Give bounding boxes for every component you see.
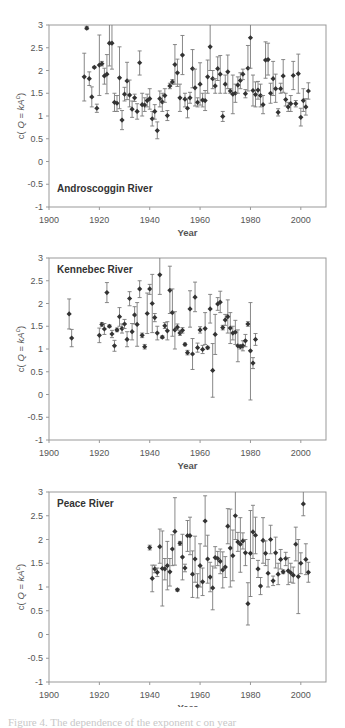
y-tick-label: 0 <box>38 390 43 400</box>
data-point <box>192 295 197 300</box>
x-tick-label: 1960 <box>190 690 210 700</box>
data-point <box>187 95 192 100</box>
data-point <box>150 116 155 121</box>
data-point <box>220 114 225 119</box>
data-point <box>283 556 288 561</box>
data-point <box>225 524 230 529</box>
y-tick-label: -0.5 <box>27 179 43 189</box>
y-tick-label: 0.5 <box>30 367 43 377</box>
x-tick-label: 1980 <box>240 690 260 700</box>
chart-title: Peace River <box>57 498 114 509</box>
data-point <box>248 35 253 40</box>
data-point <box>152 315 157 320</box>
data-point <box>263 551 268 556</box>
x-tick-label: 2000 <box>291 690 311 700</box>
x-tick-label: 1900 <box>39 215 59 225</box>
data-point <box>165 328 170 333</box>
chart-peace: 32.521.510.50-0.5-1190019201940196019802… <box>0 467 345 707</box>
y-tick-label: 2 <box>38 299 43 309</box>
data-point <box>137 60 142 65</box>
data-point <box>122 321 127 326</box>
y-tick-label: 3 <box>38 20 43 30</box>
data-point <box>185 106 190 111</box>
data-point <box>301 501 306 506</box>
data-point <box>87 76 92 81</box>
data-point <box>243 550 248 555</box>
data-point <box>82 74 87 79</box>
data-point <box>89 94 94 99</box>
plot-area <box>49 258 326 440</box>
y-tick-label: 0.5 <box>30 134 43 144</box>
data-point <box>137 286 142 291</box>
data-point <box>248 348 253 353</box>
x-tick-label: 1920 <box>89 215 109 225</box>
data-point <box>190 572 195 577</box>
data-point <box>195 583 200 588</box>
y-tick-label: 1 <box>38 344 43 354</box>
data-point <box>192 556 197 561</box>
x-tick-label: 1940 <box>140 448 160 458</box>
data-point <box>208 574 213 579</box>
data-point <box>117 314 122 319</box>
y-tick-label: -1 <box>35 435 43 445</box>
data-point <box>220 325 225 330</box>
data-point <box>260 102 265 107</box>
data-point <box>127 92 132 97</box>
y-tick-label: 0 <box>38 157 43 167</box>
data-point <box>142 344 147 349</box>
figure-caption: Figure 4. The dependence of the exponent… <box>8 716 236 728</box>
y-tick-label: 2 <box>38 535 43 545</box>
data-point <box>243 338 248 343</box>
data-point <box>283 97 288 102</box>
y-tick-label: 1 <box>38 582 43 592</box>
data-point <box>140 333 145 338</box>
data-point <box>250 361 255 366</box>
data-point <box>150 576 155 581</box>
data-point <box>276 110 281 115</box>
data-point <box>152 109 157 114</box>
data-point <box>268 91 273 96</box>
data-point <box>281 73 286 78</box>
x-tick-label: 2000 <box>291 448 311 458</box>
data-point <box>157 272 162 277</box>
data-point <box>145 311 150 316</box>
chart-svg: 32.521.510.50-0.5-1190019201940196019802… <box>0 467 345 707</box>
y-tick-label: 1 <box>38 111 43 121</box>
data-point <box>203 518 208 523</box>
y-tick-label: 2.5 <box>30 276 43 286</box>
data-point <box>210 368 215 373</box>
data-point <box>182 565 187 570</box>
chart-title: Kennebec River <box>57 264 133 275</box>
data-point <box>271 578 276 583</box>
data-point <box>147 286 152 291</box>
data-point <box>130 107 135 112</box>
data-point <box>260 538 265 543</box>
data-point <box>273 86 278 91</box>
x-tick-label: 1960 <box>190 448 210 458</box>
data-point <box>225 69 230 74</box>
data-point <box>102 326 107 331</box>
data-point <box>210 585 215 590</box>
x-tick-label: 1900 <box>39 448 59 458</box>
x-tick-label: 1960 <box>190 215 210 225</box>
data-point <box>150 301 155 306</box>
data-point <box>306 570 311 575</box>
data-point <box>245 321 250 326</box>
data-point <box>180 52 185 57</box>
data-point <box>182 342 187 347</box>
data-point <box>200 579 205 584</box>
data-point <box>67 311 72 316</box>
data-point <box>250 88 255 93</box>
x-tick-label: 1920 <box>89 690 109 700</box>
data-point <box>278 86 283 91</box>
data-point <box>182 97 187 102</box>
data-point <box>228 545 233 550</box>
chart-title: Androscoggin River <box>57 183 153 194</box>
y-tick-label: 2.5 <box>30 43 43 53</box>
y-tick-label: -0.5 <box>27 412 43 422</box>
data-point <box>253 337 258 342</box>
data-point <box>291 73 296 78</box>
data-point <box>175 70 180 75</box>
data-point <box>192 85 197 90</box>
x-tick-label: 1980 <box>240 448 260 458</box>
